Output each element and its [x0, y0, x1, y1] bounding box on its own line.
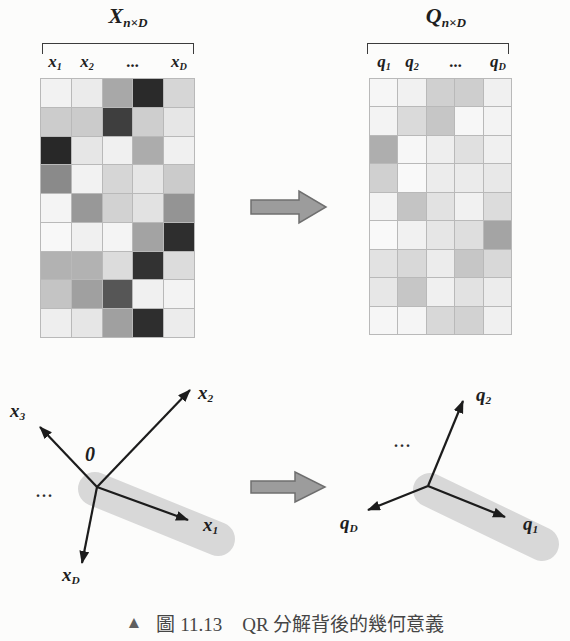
matrix-cell: [484, 164, 511, 191]
matrix-cell: [72, 137, 102, 165]
matrix-cell: [484, 79, 511, 106]
matrix-cell: [370, 221, 397, 248]
matrix-cell: [398, 136, 425, 163]
matrix-cell: [133, 137, 163, 165]
label-base: x: [48, 52, 57, 71]
right-matrix-title: Qn×D: [426, 3, 466, 29]
matrix-cell: [41, 194, 71, 222]
matrix-cell: [370, 79, 397, 106]
matrix-cell: [484, 250, 511, 277]
matrix-cell: [427, 221, 454, 248]
matrix-cell: [133, 252, 163, 280]
figure-caption: ▲ 圖 11.13 QR 分解背後的幾何意義: [0, 609, 570, 636]
right-diagram-ellipsis: ...: [394, 434, 412, 450]
matrix-cell: [133, 194, 163, 222]
left-matrix-heatmap: [40, 78, 195, 338]
matrix-cell: [398, 164, 425, 191]
left-col-label-x2: x2: [80, 52, 94, 74]
label-base: q: [405, 52, 414, 71]
label-sub: 1: [386, 61, 391, 72]
label-sub: 1: [533, 523, 539, 535]
matrix-cell: [164, 165, 194, 193]
matrix-cell: [455, 221, 482, 248]
matrix-cell: [398, 307, 425, 334]
matrix-cell: [133, 223, 163, 251]
left-col-label-x1: x1: [48, 52, 62, 74]
matrix-cell: [103, 194, 133, 222]
matrix-cell: [427, 107, 454, 134]
matrix-cell: [103, 108, 133, 136]
label-sub: 2: [208, 392, 214, 404]
matrix-cell: [133, 165, 163, 193]
origin-label: 0: [85, 444, 95, 464]
label-base: x: [80, 52, 89, 71]
matrix-cell: [72, 252, 102, 280]
label-base: x: [62, 564, 72, 585]
matrix-cell: [41, 108, 71, 136]
matrix-cell: [41, 252, 71, 280]
label-sub: D: [180, 61, 187, 72]
right-block-arrow-icon: [251, 191, 326, 223]
matrix-cell: [427, 164, 454, 191]
label-sub: D: [350, 522, 358, 534]
label-base: x: [198, 382, 208, 403]
matrix-cell: [103, 165, 133, 193]
matrix-cell: [427, 136, 454, 163]
matrix-cell: [484, 221, 511, 248]
matrix-cell: [103, 309, 133, 337]
matrix-cell: [72, 79, 102, 107]
matrix-cell: [427, 250, 454, 277]
right-col-label-ellipsis: ...: [450, 52, 463, 74]
matrix-cell: [484, 307, 511, 334]
matrix-cell: [103, 280, 133, 308]
left-matrix-title-base: X: [108, 3, 123, 28]
matrix-cell: [133, 309, 163, 337]
matrix-cell: [398, 250, 425, 277]
matrix-cell: [41, 79, 71, 107]
matrix-cell: [41, 309, 71, 337]
matrix-cell: [164, 194, 194, 222]
matrix-cell: [41, 137, 71, 165]
matrix-cell: [398, 278, 425, 305]
left-matrix-title: Xn×D: [108, 3, 147, 29]
matrix-cell: [370, 136, 397, 163]
matrix-cell: [455, 278, 482, 305]
vector-label-xD: xD: [62, 565, 80, 587]
matrix-cell: [103, 223, 133, 251]
left-matrix-title-subscript: n×D: [123, 15, 147, 30]
matrix-cell: [370, 164, 397, 191]
matrix-cell: [72, 108, 102, 136]
label-sub: D: [499, 61, 506, 72]
transform-arrow-top-icon: [250, 188, 328, 226]
matrix-cell: [455, 136, 482, 163]
label-sub: 2: [414, 61, 419, 72]
matrix-cell: [427, 79, 454, 106]
right-col-label-q2: q2: [405, 52, 419, 74]
label-base: ...: [450, 52, 463, 71]
vector-label-x3: x3: [10, 401, 25, 423]
matrix-cell: [455, 193, 482, 220]
right-col-label-q1: q1: [377, 52, 391, 74]
matrix-cell: [427, 193, 454, 220]
left-diagram-ellipsis: ...: [36, 484, 54, 500]
matrix-cell: [164, 223, 194, 251]
caption-text: QR 分解背後的幾何意義: [242, 609, 444, 636]
label-base: q: [490, 52, 499, 71]
label-base: x: [203, 514, 213, 535]
matrix-cell: [41, 280, 71, 308]
label-sub: 3: [20, 410, 26, 422]
matrix-cell: [41, 165, 71, 193]
matrix-cell: [103, 79, 133, 107]
matrix-cell: [455, 79, 482, 106]
vector-label-x1: x1: [203, 515, 218, 537]
matrix-cell: [484, 278, 511, 305]
matrix-cell: [72, 194, 102, 222]
vector-label-qD: qD: [340, 513, 358, 535]
matrix-cell: [484, 193, 511, 220]
matrix-cell: [370, 278, 397, 305]
matrix-cell: [133, 79, 163, 107]
matrix-cell: [455, 307, 482, 334]
matrix-cell: [72, 309, 102, 337]
matrix-cell: [455, 107, 482, 134]
label-base: x: [171, 52, 180, 71]
